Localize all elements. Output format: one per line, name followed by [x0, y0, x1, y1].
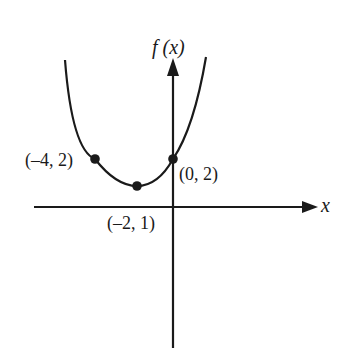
y-axis-label: f (x) [152, 36, 185, 59]
parabola-graph: f (x) x (–4, 2) (0, 2) (–2, 1) [0, 0, 350, 360]
point-vertex [132, 181, 142, 191]
point-label-0-2: (0, 2) [179, 164, 218, 185]
y-axis-arrow-icon [167, 58, 179, 76]
point-0-2 [168, 154, 178, 164]
point-neg4-2 [90, 154, 100, 164]
point-label-vertex: (–2, 1) [107, 213, 155, 234]
point-label-neg4-2: (–4, 2) [25, 150, 73, 171]
x-axis-label: x [320, 194, 330, 216]
x-axis-arrow-icon [302, 201, 318, 213]
